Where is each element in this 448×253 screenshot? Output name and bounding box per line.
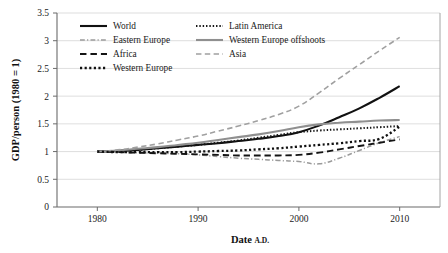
- y-tick-label-0: 0: [44, 202, 49, 212]
- y-tick-label-2.5: 2.5: [37, 64, 49, 74]
- y-tick-label-3.5: 3.5: [37, 8, 49, 18]
- y-tick-label-3: 3: [44, 36, 49, 46]
- legend-label-western-europe: Western Europe: [113, 63, 172, 73]
- legend-label-eastern-europe: Eastern Europe: [113, 35, 170, 45]
- y-tick-label-1.5: 1.5: [37, 119, 49, 129]
- y-tick-label-2: 2: [44, 92, 49, 102]
- gdp-per-person-line-chart: 00.511.522.533.5 1980199020002010 GDP/pe…: [0, 0, 448, 253]
- legend-label-world: World: [113, 21, 136, 31]
- x-tick-label-1990: 1990: [189, 214, 208, 224]
- y-tick-label-0.5: 0.5: [37, 175, 49, 185]
- x-tick-label-1980: 1980: [88, 214, 107, 224]
- x-axis-title: Date A.D.: [231, 234, 269, 245]
- y-axis-title: GDP/person (1980 = 1): [10, 58, 22, 161]
- legend-label-asia: Asia: [229, 49, 246, 59]
- x-axis-title-main: Date: [231, 234, 255, 245]
- legend-label-africa: Africa: [113, 49, 137, 59]
- x-axis-title-smallcaps: A.D.: [255, 236, 270, 245]
- legend-label-western-europe-offshoots: Western Europe offshoots: [229, 35, 326, 45]
- x-axis-title-text: Date A.D.: [231, 234, 269, 245]
- chart-figure: 00.511.522.533.5 1980199020002010 GDP/pe…: [0, 0, 448, 253]
- x-tick-label-2000: 2000: [289, 214, 308, 224]
- y-axis-title-text: GDP/person (1980 = 1): [10, 58, 22, 161]
- y-tick-label-1: 1: [44, 147, 49, 157]
- legend-label-latin-america: Latin America: [229, 21, 282, 31]
- x-tick-label-2010: 2010: [390, 214, 409, 224]
